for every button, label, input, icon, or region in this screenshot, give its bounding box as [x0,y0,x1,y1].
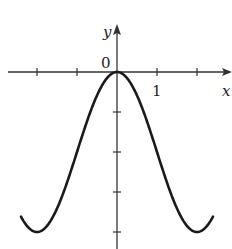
x-axis-label: x [222,82,231,100]
x-tick-label-1: 1 [152,82,162,100]
y-axis-label: y [102,23,112,41]
origin-label: 0 [101,54,111,72]
axes [8,24,232,249]
chart-container: y x 0 1 [0,0,232,249]
chart-svg: y x 0 1 [0,0,232,249]
